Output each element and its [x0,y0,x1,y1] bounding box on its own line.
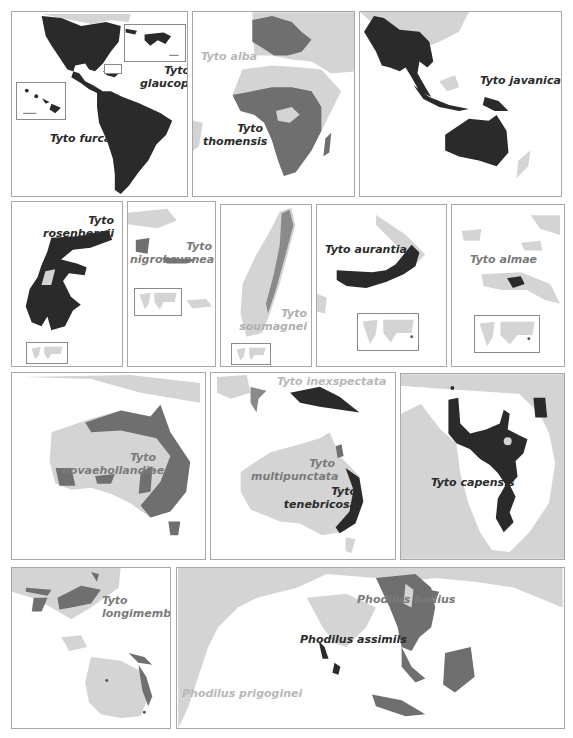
map-panel-sula-islands: Tytonigrobrunnea [127,201,216,367]
map-panel-new-guinea-almae: Tyto almae [451,204,565,367]
label-tyto-soumagnei: Tytosoumagnei [231,307,307,333]
map-panel-americas: Tytoglaucops Tyto furcata [11,11,188,197]
label-phodilus-assimils: Phodilus assimils [300,633,407,646]
map-panel-madagascar: Tytosoumagnei [220,204,312,367]
label-tyto-capensis: Tyto capensis [431,476,514,489]
indian-ocean-map [177,568,564,728]
sula-islands-map [128,202,215,366]
label-tyto-javanica: Tyto javanica [480,74,561,87]
map-panel-southern-africa: Tyto capensis [400,373,565,560]
label-tyto-longimembris: Tytolongimembris [102,594,171,620]
map-panel-asia-longimembris: Tytolongimembris [11,567,171,729]
inset-caribbean [124,24,186,62]
africa-europe-map [193,12,354,196]
label-tyto-nigrobrunnea: Tytonigrobrunnea [130,240,212,266]
label-tyto-alba: Tyto alba [201,50,257,63]
label-tyto-glaucops: Tytoglaucops [140,64,188,90]
label-tyto-rosenbergii: Tytorosenbergii [42,214,114,240]
label-tyto-novaehollandiae: Tytonovaehollandiae [62,451,156,477]
map-panel-new-britain: Tyto aurantia [316,204,447,367]
map-panel-indian-ocean: Phodilus badius Phodilus assimils Phodil… [176,567,565,729]
map-panel-australia-tenebricosa: Tyto inexspectata Tytomultipunctata Tyto… [210,372,396,560]
southern-africa-map [401,374,564,559]
inset-hawaii [16,82,66,120]
inset-marker-hispaniola [104,64,122,74]
label-phodilus-badius: Phodilus badius [357,593,455,606]
label-tyto-tenebricosa: Tytotenebricosa [271,485,357,511]
madagascar-map [221,205,311,366]
inset-world-map [134,288,182,316]
label-tyto-thomensis: Tytothomensis [203,122,263,148]
label-tyto-inexspectata: Tyto inexspectata [277,375,386,388]
inset-world-map [26,342,68,364]
inset-world-map [357,313,419,351]
label-phodilus-prigoginei: Phodilus prigoginei [182,687,302,700]
inset-world-map [474,315,540,353]
inset-world-map [231,343,271,365]
label-tyto-multipunctata: Tytomultipunctata [251,457,335,483]
asia-longimembris-map [12,568,170,728]
map-panel-asia-australia: Tyto javanica [359,11,562,197]
map-panel-africa-europe: Tyto alba Tytothomensis [192,11,355,197]
label-tyto-aurantia: Tyto aurantia [325,243,407,256]
label-tyto-furcata: Tyto furcata [50,132,124,145]
map-panel-australia-novaehollandiae: Tytonovaehollandiae [11,372,206,560]
asia-australia-map [360,12,561,196]
label-tyto-almae: Tyto almae [470,253,537,266]
map-panel-sulawesi: Tytorosenbergii [11,201,123,367]
